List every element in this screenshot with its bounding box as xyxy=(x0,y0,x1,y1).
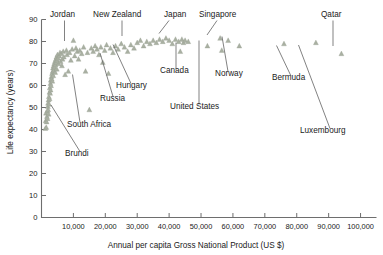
annotation-label-singapore: Singapore xyxy=(199,10,237,19)
x-axis-title: Annual per capita Gross National Product… xyxy=(108,241,285,250)
annotation-label-south-africa: South Africa xyxy=(67,120,112,129)
data-point-marker xyxy=(66,69,71,74)
annotation-label-brundi: Brundi xyxy=(65,149,89,158)
data-point-marker xyxy=(178,49,183,54)
x-tick-label: 100,000 xyxy=(347,222,374,231)
y-axis-title: Life expectancy (years) xyxy=(6,69,15,154)
x-tick-label: 30,000 xyxy=(126,222,149,231)
data-point-marker xyxy=(71,38,76,43)
y-tick-label: 10 xyxy=(29,191,37,200)
data-point-marker xyxy=(119,41,124,46)
x-axis-tick-labels: 10,00020,00030,00040,00050,00060,00070,0… xyxy=(62,222,374,231)
data-point-marker xyxy=(104,42,109,47)
leader-line-luxembourg xyxy=(299,45,331,129)
annotation-label-luxembourg: Luxembourg xyxy=(300,126,346,135)
leader-line-russia xyxy=(100,53,113,97)
annotation-label-norway: Norway xyxy=(215,69,244,78)
data-point-marker xyxy=(151,38,156,43)
data-point-marker xyxy=(87,107,92,112)
y-tick-label: 20 xyxy=(29,169,37,178)
annotation-label-russia: Russia xyxy=(100,94,125,103)
data-point-marker xyxy=(98,44,103,49)
y-tick-label: 50 xyxy=(29,103,37,112)
x-tick-label: 90,000 xyxy=(317,222,340,231)
data-point-marker xyxy=(72,53,77,58)
data-point-marker xyxy=(70,47,75,52)
y-axis-tick-labels: 0102030405060708090 xyxy=(29,15,37,222)
chart-figure: 0102030405060708090 10,00020,00030,00040… xyxy=(0,0,383,255)
data-point-marker xyxy=(313,40,318,45)
annotation-labels: JordanNew ZealandJapanSingaporeQatarCana… xyxy=(50,10,346,158)
annotation-label-qatar: Qatar xyxy=(321,10,342,19)
annotation-label-japan: Japan xyxy=(164,10,187,19)
y-tick-label: 0 xyxy=(33,213,37,222)
data-point-marker xyxy=(237,43,242,48)
y-tick-label: 40 xyxy=(29,125,37,134)
y-tick-label: 60 xyxy=(29,81,37,90)
data-point-marker xyxy=(64,48,69,53)
x-tick-label: 60,000 xyxy=(222,222,245,231)
data-point-marker xyxy=(219,48,224,53)
leader-line-japan xyxy=(159,21,169,34)
data-point-marker xyxy=(205,43,210,48)
annotation-label-jordan: Jordan xyxy=(50,10,75,19)
data-point-marker xyxy=(339,51,344,56)
y-tick-label: 70 xyxy=(29,59,37,68)
annotation-label-new-zealand: New Zealand xyxy=(93,10,142,19)
data-point-marker xyxy=(83,69,88,74)
data-point-marker xyxy=(81,44,86,49)
data-point-marker xyxy=(282,41,287,46)
leader-line-bermuda xyxy=(277,46,292,77)
scatter-plot: 0102030405060708090 10,00020,00030,00040… xyxy=(0,0,383,255)
data-point-marker xyxy=(226,38,231,43)
data-point-marker xyxy=(138,38,143,43)
data-point-marker xyxy=(110,50,115,55)
x-tick-label: 10,000 xyxy=(62,222,85,231)
x-tick-label: 50,000 xyxy=(190,222,213,231)
y-tick-label: 30 xyxy=(29,147,37,156)
data-points xyxy=(43,36,344,131)
x-tick-label: 20,000 xyxy=(94,222,117,231)
annotation-label-bermuda: Bermuda xyxy=(272,73,306,82)
annotation-label-united-states: United States xyxy=(170,102,219,111)
annotation-label-hungary: Hungary xyxy=(116,81,148,90)
x-tick-label: 70,000 xyxy=(254,222,277,231)
data-point-marker xyxy=(157,37,162,42)
data-point-marker xyxy=(85,50,90,55)
leader-line-south-africa xyxy=(73,75,81,123)
annotation-leader-lines xyxy=(51,21,333,152)
data-point-marker xyxy=(128,42,133,47)
data-point-marker xyxy=(144,39,149,44)
data-point-marker xyxy=(68,58,73,63)
x-tick-label: 80,000 xyxy=(285,222,308,231)
data-point-marker xyxy=(173,37,178,42)
annotation-label-canada: Canada xyxy=(160,66,189,75)
data-point-marker xyxy=(163,36,168,41)
x-tick-label: 40,000 xyxy=(158,222,181,231)
y-tick-label: 80 xyxy=(29,37,37,46)
data-point-marker xyxy=(125,49,130,54)
y-tick-label: 90 xyxy=(29,15,37,24)
leader-line-singapore xyxy=(207,21,217,36)
data-point-marker xyxy=(141,43,146,48)
